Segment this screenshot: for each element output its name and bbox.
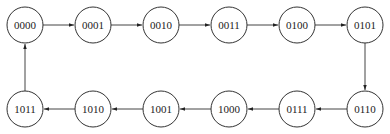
state-label: 1010	[82, 103, 105, 115]
state-label: 1000	[218, 103, 241, 115]
state-node: 1000	[211, 91, 247, 127]
state-label: 0111	[286, 103, 307, 115]
transition-edges	[25, 25, 365, 109]
state-label: 0100	[286, 19, 309, 31]
state-node: 0100	[279, 7, 315, 43]
state-label: 0001	[82, 19, 104, 31]
state-label: 0101	[354, 19, 376, 31]
state-label: 0110	[354, 103, 376, 115]
state-node: 1001	[143, 91, 179, 127]
state-node: 0111	[279, 91, 315, 127]
state-node: 1010	[75, 91, 111, 127]
state-node: 0101	[347, 7, 383, 43]
state-label: 0011	[218, 19, 240, 31]
state-node: 1011	[7, 91, 43, 127]
state-node: 0000	[7, 7, 43, 43]
state-label: 1001	[150, 103, 172, 115]
state-label: 0000	[14, 19, 37, 31]
state-label: 1011	[14, 103, 36, 115]
state-node: 0011	[211, 7, 247, 43]
state-label: 0010	[150, 19, 173, 31]
state-node: 0001	[75, 7, 111, 43]
state-node: 0010	[143, 7, 179, 43]
state-diagram: 0000000100100011010001010110011110001001…	[0, 0, 390, 134]
state-node: 0110	[347, 91, 383, 127]
